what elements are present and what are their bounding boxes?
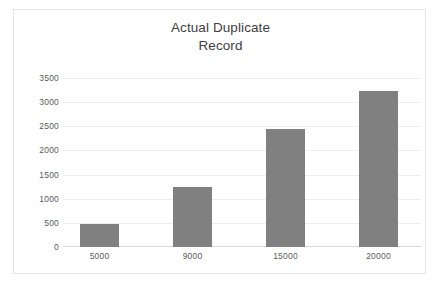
x-axis: 5000 9000 15000 20000 xyxy=(63,251,421,267)
bar-series xyxy=(63,78,421,247)
y-axis-tick-label: 1500 xyxy=(39,170,59,180)
x-axis-tick-label: 5000 xyxy=(55,251,145,261)
bar-9000[interactable] xyxy=(173,187,212,247)
bar-5000[interactable] xyxy=(80,224,119,247)
y-axis-tick-label: 500 xyxy=(44,218,59,228)
y-axis-tick-label: 1000 xyxy=(39,194,59,204)
bar-15000[interactable] xyxy=(266,129,305,247)
x-axis-tick-label: 20000 xyxy=(334,251,424,261)
x-axis-tick-label: 15000 xyxy=(241,251,331,261)
chart-title-line-2: Record xyxy=(198,38,242,53)
y-axis-tick-label: 2000 xyxy=(39,145,59,155)
y-axis-tick-label: 3000 xyxy=(39,97,59,107)
y-axis: 3500 3000 2500 2000 1500 1000 500 0 xyxy=(14,78,59,247)
x-axis-tick-label: 9000 xyxy=(148,251,238,261)
chart-title: Actual Duplicate Record xyxy=(14,19,427,55)
y-axis-tick-label: 3500 xyxy=(39,73,59,83)
bar-20000[interactable] xyxy=(359,91,398,247)
y-axis-tick-label: 2500 xyxy=(39,121,59,131)
chart-container: Actual Duplicate Record 3500 3000 2500 2… xyxy=(13,9,426,274)
chart-title-line-1: Actual Duplicate xyxy=(171,20,270,35)
